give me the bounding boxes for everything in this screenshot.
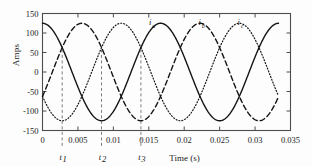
chart-plot-area: 00.0050.010.0150.020.0250.030.0351501005…: [0, 0, 312, 166]
curve-label-i_a: ia: [149, 17, 155, 29]
y-tick-label: 150: [26, 9, 39, 19]
annotation-label-t1: t1: [60, 152, 67, 165]
svg-text:3: 3: [140, 154, 145, 164]
svg-text:b: b: [202, 23, 205, 29]
plot-frame: [43, 14, 291, 131]
annotation-label-t3: t3: [138, 152, 145, 165]
curve-i_b: [43, 23, 279, 121]
svg-text:1: 1: [63, 154, 67, 164]
x-tick-label: 0.035: [281, 135, 300, 145]
x-tick-label: 0.03: [248, 135, 263, 145]
x-axis-label: Time (s): [169, 153, 199, 163]
curve-label-i_b: ib: [199, 17, 205, 29]
y-tick-label: 50: [30, 48, 39, 58]
y-tick-label: 0: [34, 67, 38, 77]
svg-text:c: c: [241, 23, 244, 29]
curve-i_a: [43, 23, 279, 121]
svg-text:a: a: [152, 23, 155, 29]
curve-i_c: [43, 23, 279, 121]
x-tick-label: 0.02: [177, 135, 192, 145]
current-waveform-figure: Amps 00.0050.010.0150.020.0250.030.03515…: [0, 0, 312, 166]
y-tick-label: -100: [23, 106, 39, 116]
x-tick-label: 0.005: [68, 135, 87, 145]
x-tick-label: 0: [40, 135, 44, 145]
x-tick-label: 0.025: [210, 135, 229, 145]
y-tick-label: 100: [26, 28, 39, 38]
y-tick-label: -150: [23, 126, 39, 136]
x-tick-label: 0.01: [106, 135, 121, 145]
annotation-label-t2: t2: [99, 152, 107, 165]
curve-label-i_c: ic: [238, 17, 244, 29]
x-tick-label: 0.015: [139, 135, 158, 145]
x-axis-ticks: 00.0050.010.0150.020.0250.030.035: [40, 14, 300, 145]
svg-text:2: 2: [102, 154, 107, 164]
y-tick-label: -50: [27, 87, 38, 97]
